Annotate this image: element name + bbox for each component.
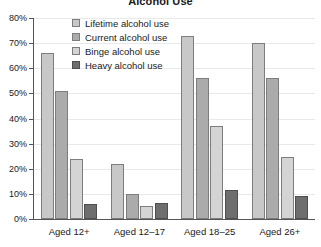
legend-swatch-icon [72, 19, 80, 27]
legend-label: Current alcohol use [85, 32, 167, 43]
y-axis-tick-label: 0% [14, 214, 27, 224]
bar [84, 204, 97, 219]
y-axis-tick-label: 10% [9, 189, 27, 199]
x-axis-tick-label: Aged 18–25 [184, 226, 235, 237]
y-axis-tick [29, 93, 33, 94]
bar [126, 194, 139, 219]
y-axis-tick [29, 144, 33, 145]
y-axis-tick [29, 194, 33, 195]
bar [41, 53, 54, 219]
legend-swatch-icon [72, 47, 80, 55]
y-axis-tick-label: 50% [9, 88, 27, 98]
bar [281, 157, 294, 219]
y-axis-tick-label: 70% [9, 38, 27, 48]
bar [55, 91, 68, 219]
legend-label: Lifetime alcohol use [85, 18, 169, 29]
legend-swatch-icon [72, 33, 80, 41]
y-axis-tick [29, 219, 33, 220]
y-axis-tick [29, 119, 33, 120]
bar [155, 203, 168, 219]
bar-group [252, 18, 309, 219]
x-axis-tick-label: Aged 12–17 [114, 226, 165, 237]
y-axis-tick-label: 80% [9, 13, 27, 23]
legend-label: Heavy alcohol use [85, 60, 163, 71]
legend-item: Binge alcohol use [72, 44, 169, 58]
x-axis-line [33, 219, 315, 220]
y-axis-tick [29, 169, 33, 170]
legend-item: Heavy alcohol use [72, 58, 169, 72]
legend-swatch-icon [72, 61, 80, 69]
y-axis-tick-label: 30% [9, 139, 27, 149]
bar [266, 78, 279, 219]
y-axis-tick [29, 68, 33, 69]
legend-label: Binge alcohol use [85, 46, 160, 57]
bar [111, 164, 124, 219]
bar [181, 36, 194, 219]
x-axis-tick-label: Aged 26+ [259, 226, 300, 237]
chart-title: Alcohol Use [0, 0, 321, 7]
chart-legend: Lifetime alcohol useCurrent alcohol useB… [72, 16, 169, 72]
y-axis-tick-label: 20% [9, 164, 27, 174]
bar [210, 126, 223, 219]
y-axis-tick-label: 40% [9, 114, 27, 124]
y-axis-tick-label: 60% [9, 63, 27, 73]
bar [225, 190, 238, 219]
y-axis-tick [29, 18, 33, 19]
bar [196, 78, 209, 219]
legend-item: Current alcohol use [72, 30, 169, 44]
bar-group [181, 18, 238, 219]
x-axis-tick-label: Aged 12+ [49, 226, 90, 237]
bar [252, 43, 265, 219]
bar [70, 159, 83, 219]
bar [295, 196, 308, 219]
legend-item: Lifetime alcohol use [72, 16, 169, 30]
bar [140, 206, 153, 219]
alcohol-use-bar-chart: Alcohol Use 0%10%20%30%40%50%60%70%80% A… [0, 0, 321, 247]
y-axis-tick [29, 43, 33, 44]
